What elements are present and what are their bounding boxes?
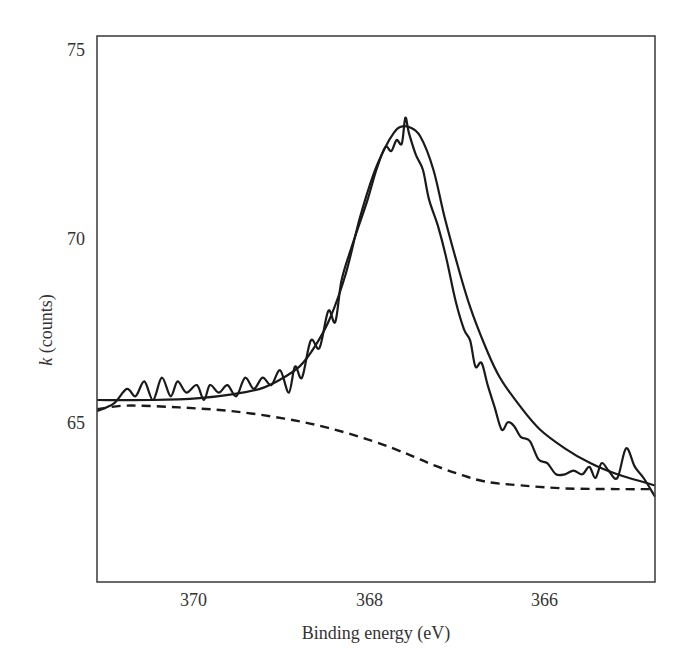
curve-background bbox=[97, 406, 655, 490]
plot-curves bbox=[97, 117, 655, 496]
plot-frame bbox=[97, 36, 655, 582]
xtick-370: 370 bbox=[180, 590, 207, 611]
y-axis-label-variable: k bbox=[36, 358, 56, 366]
curve-fit bbox=[97, 126, 655, 485]
ytick-70: 70 bbox=[67, 229, 85, 250]
y-axis-label-unit: (counts) bbox=[36, 294, 56, 357]
xtick-366: 366 bbox=[531, 590, 558, 611]
y-axis-label: k (counts) bbox=[36, 294, 57, 365]
curve-measured bbox=[97, 117, 655, 496]
ytick-65: 65 bbox=[67, 413, 85, 434]
xps-spectrum-plot bbox=[0, 0, 688, 668]
ytick-75: 75 bbox=[67, 40, 85, 61]
xtick-368: 368 bbox=[356, 590, 383, 611]
x-axis-label: Binding energy (eV) bbox=[302, 623, 451, 644]
